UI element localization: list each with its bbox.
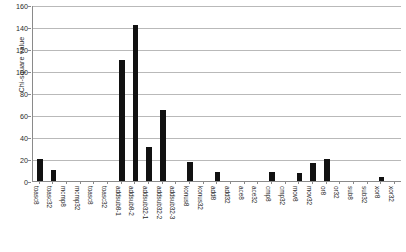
x-axis-label-slot: addsub8-1	[114, 184, 128, 250]
x-axis-tick-label: xor32	[388, 186, 394, 202]
x-axis-tick-label: addsub8-1	[114, 186, 120, 216]
bar	[187, 162, 193, 181]
x-axis-tick-mark	[285, 182, 286, 184]
x-axis-tick-label: addsub32-3	[169, 186, 175, 219]
x-axis-tick-mark	[66, 182, 67, 184]
x-axis-tick-label: sub32	[360, 186, 366, 203]
bar	[297, 173, 303, 181]
x-axis-tick-label: konus8	[183, 186, 189, 206]
y-axis-tick-labels: 020406080100120140160	[0, 6, 28, 182]
x-axis-tick-mark	[134, 182, 135, 184]
x-axis-tick-label: mov32	[306, 186, 312, 205]
x-axis-tick-mark	[326, 182, 327, 184]
x-axis-tick-mark	[380, 182, 381, 184]
x-axis-label-slot: toasc8	[32, 184, 46, 250]
x-axis-label-slot: mov8	[292, 184, 306, 250]
y-axis-tick-label: 0	[2, 178, 28, 187]
x-axis-tick-label: add8	[210, 186, 216, 200]
x-axis-tick-mark	[353, 182, 354, 184]
x-axis-tick-label: ace32	[251, 186, 257, 203]
x-axis-tick-mark	[298, 182, 299, 184]
x-axis-tick-mark	[52, 182, 53, 184]
x-axis-tick-mark	[394, 182, 395, 184]
x-axis-label-slot: or32	[333, 184, 347, 250]
bar	[310, 163, 316, 181]
x-axis-tick-mark	[271, 182, 272, 184]
x-axis-tick-mark	[230, 182, 231, 184]
x-axis-label-slot: or8	[319, 184, 333, 250]
bar	[119, 60, 125, 181]
y-axis-tick-label: 20	[2, 156, 28, 165]
x-axis-tick-label: mov8	[292, 186, 298, 201]
x-axis-label-slot: konus32	[196, 184, 210, 250]
y-axis-tick-label: 100	[2, 68, 28, 77]
y-axis-tick-label: 40	[2, 134, 28, 143]
y-axis-tick-mark	[28, 6, 31, 7]
x-axis-tick-label: mcmp32	[73, 186, 79, 210]
y-axis-tick-mark	[28, 28, 31, 29]
x-axis-tick-label: toasc8	[87, 186, 93, 205]
x-axis-tick-mark	[148, 182, 149, 184]
x-axis-tick-mark	[107, 182, 108, 184]
y-axis-tick-mark	[28, 160, 31, 161]
x-axis-label-slot: xor32	[387, 184, 401, 250]
y-axis-tick-label: 120	[2, 46, 28, 55]
x-axis-tick-mark	[312, 182, 313, 184]
x-axis-tick-label: konus32	[196, 186, 202, 210]
y-axis-tick-mark	[28, 72, 31, 73]
x-axis-tick-label: addsub8-2	[128, 186, 134, 216]
x-axis-label-slot: toasc32	[100, 184, 114, 250]
x-axis-label-slot: ace32	[251, 184, 265, 250]
bar	[324, 159, 330, 181]
bar	[160, 110, 166, 182]
x-axis-tick-mark	[93, 182, 94, 184]
x-axis-tick-label: or8	[319, 186, 325, 195]
x-axis-label-slot: mcmp32	[73, 184, 87, 250]
x-axis-label-slot: addsub32-2	[155, 184, 169, 250]
chi-square-bar-chart: Chi-square value 020406080100120140160 t…	[0, 0, 406, 252]
x-axis-tick-label: cmp32	[278, 186, 284, 205]
x-axis-label-slot: cmp8	[264, 184, 278, 250]
x-axis-label-slot: konus8	[182, 184, 196, 250]
y-axis-tick-label: 140	[2, 24, 28, 33]
bar	[215, 172, 221, 181]
y-axis-tick-label: 160	[2, 2, 28, 11]
y-axis-tick-label: 80	[2, 90, 28, 99]
x-axis-tick-mark	[175, 182, 176, 184]
x-axis-tick-mark	[39, 182, 40, 184]
bar	[51, 170, 57, 181]
x-axis-label-slot: mov32	[305, 184, 319, 250]
x-axis-tick-label: mcmp8	[60, 186, 66, 207]
y-axis-tick-label: 60	[2, 112, 28, 121]
bar	[37, 159, 43, 181]
x-axis-label-slot: sub8	[346, 184, 360, 250]
x-axis-category-labels: toasc8toasc32mcmp8mcmp32toasc8toasc32add…	[32, 184, 401, 250]
x-axis-tick-label: add32	[224, 186, 230, 204]
x-axis-tick-mark	[162, 182, 163, 184]
x-axis-tick-mark	[189, 182, 190, 184]
x-axis-tick-label: or32	[333, 186, 339, 199]
x-axis-label-slot: addsub32-1	[141, 184, 155, 250]
bar	[269, 172, 275, 181]
x-axis-tick-mark	[244, 182, 245, 184]
x-axis-tick-mark	[121, 182, 122, 184]
x-axis-label-slot: ace8	[237, 184, 251, 250]
plot-area	[32, 6, 401, 182]
x-axis-label-slot: add8	[210, 184, 224, 250]
x-axis-tick-label: cmp8	[265, 186, 271, 201]
x-axis-tick-label: sub8	[347, 186, 353, 200]
x-axis-tick-mark	[367, 182, 368, 184]
x-axis-label-slot: mcmp8	[59, 184, 73, 250]
x-axis-tick-mark	[203, 182, 204, 184]
x-axis-label-slot: cmp32	[278, 184, 292, 250]
x-axis-label-slot: addsub8-2	[128, 184, 142, 250]
x-axis-tick-mark	[80, 182, 81, 184]
x-axis-tick-mark	[339, 182, 340, 184]
x-axis-label-slot: sub32	[360, 184, 374, 250]
y-axis-tick-mark	[28, 138, 31, 139]
y-axis-tick-mark	[28, 94, 31, 95]
x-axis-tick-label: toasc32	[46, 186, 52, 208]
x-axis-label-slot: toasc8	[87, 184, 101, 250]
bar	[146, 147, 152, 181]
x-axis-label-slot: xor8	[374, 184, 388, 250]
